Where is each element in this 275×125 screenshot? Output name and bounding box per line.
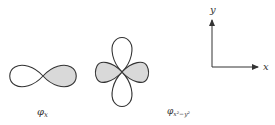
px-left-lobe — [10, 65, 43, 86]
px-label: φx — [37, 106, 48, 119]
px-orbital — [10, 65, 77, 86]
dx2y2-label: φx²−y² — [167, 106, 191, 118]
x-axis-label: x — [263, 61, 269, 72]
px-right-lobe — [43, 65, 76, 86]
dx2y2-orbital — [96, 38, 149, 107]
y-axis-label: y — [209, 4, 216, 15]
orbital-diagram: φx φx²−y² y x — [0, 0, 275, 125]
coordinate-axes: y x — [209, 4, 269, 72]
